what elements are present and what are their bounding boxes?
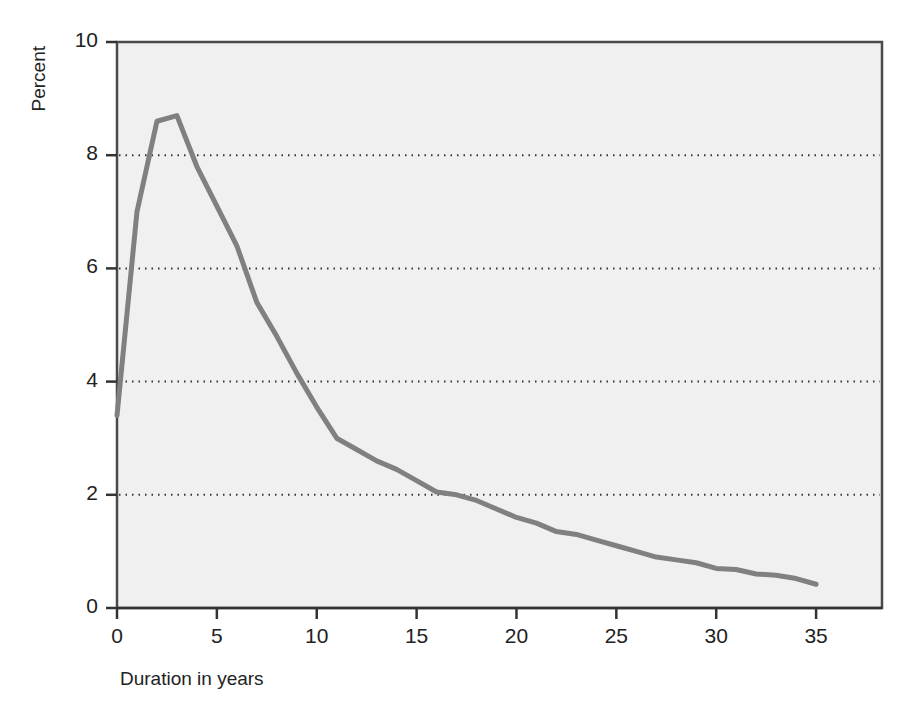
line-chart-plot bbox=[0, 0, 914, 725]
plot-background bbox=[117, 42, 882, 608]
chart-figure: Percent Duration in years 0246810 051015… bbox=[0, 0, 914, 725]
